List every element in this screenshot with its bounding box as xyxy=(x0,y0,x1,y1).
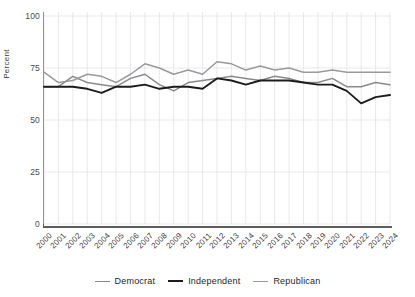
legend-item-independent[interactable]: Independent xyxy=(168,276,240,286)
legend-label: Republican xyxy=(273,276,320,286)
legend-label: Independent xyxy=(188,276,240,286)
chart-legend: DemocratIndependentRepublican xyxy=(0,276,415,286)
legend-line-icon xyxy=(168,280,183,282)
legend-line-icon xyxy=(253,281,268,282)
legend-item-republican[interactable]: Republican xyxy=(253,276,320,286)
legend-line-icon xyxy=(95,281,110,282)
x-axis-tick-labels: 2000200120022003200420052006200720082009… xyxy=(0,0,415,297)
line-chart: Percent 0255075100 200020012002200320042… xyxy=(0,0,415,297)
legend-item-democrat[interactable]: Democrat xyxy=(95,276,156,286)
legend-label: Democrat xyxy=(115,276,156,286)
